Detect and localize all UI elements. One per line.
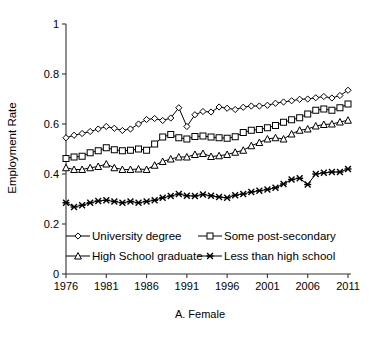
data-point-diamond	[111, 125, 117, 131]
data-point-square	[160, 134, 166, 140]
data-point-x	[280, 181, 287, 187]
data-point-square	[176, 135, 182, 141]
data-point-x	[183, 193, 190, 199]
data-point-diamond	[240, 104, 246, 110]
data-point-diamond	[232, 106, 238, 112]
data-point-x	[95, 198, 102, 204]
data-point-diamond	[272, 100, 278, 106]
data-point-diamond	[216, 104, 222, 110]
data-point-diamond	[79, 130, 85, 136]
data-point-triangle	[345, 117, 352, 124]
data-point-triangle	[63, 164, 70, 171]
data-point-diamond	[135, 121, 141, 127]
data-point-x	[199, 192, 206, 198]
data-point-x	[135, 200, 142, 206]
data-point-diamond	[95, 126, 101, 132]
y-axis-tick-label: 0.8	[44, 68, 59, 80]
data-point-diamond	[87, 128, 93, 134]
legend-item-3[interactable]: High School graduate	[66, 250, 203, 262]
data-point-diamond	[184, 123, 190, 129]
data-point-triangle	[256, 139, 263, 146]
data-point-x	[296, 175, 303, 181]
data-point-triangle	[288, 131, 295, 138]
chart-canvas: 00.20.40.60.81 1976198119861991199620012…	[0, 0, 383, 337]
chart-legend: University degreeSome post-secondaryHigh…	[66, 230, 336, 262]
data-point-x	[304, 182, 311, 188]
data-point-triangle	[240, 147, 247, 154]
data-point-triangle	[272, 134, 279, 141]
data-point-x	[159, 195, 166, 201]
legend-label: University degree	[92, 230, 181, 242]
data-point-diamond	[143, 116, 149, 122]
data-point-x	[216, 194, 223, 200]
data-point-diamond	[305, 96, 311, 102]
x-axis-tick-label: 1996	[215, 280, 239, 292]
legend-item-2[interactable]: Some post-secondary	[198, 230, 336, 242]
x-axis-tick-label: 1976	[54, 280, 78, 292]
data-point-x	[288, 177, 295, 183]
data-point-x	[320, 170, 327, 176]
data-point-square	[200, 133, 206, 139]
data-point-x	[256, 188, 263, 194]
employment-rate-chart: 00.20.40.60.81 1976198119861991199620012…	[0, 0, 383, 337]
data-point-x	[119, 200, 126, 206]
data-point-square	[87, 150, 93, 156]
data-point-x	[167, 193, 174, 199]
y-axis: 00.20.40.60.81	[44, 18, 66, 280]
y-axis-tick-label: 1	[53, 18, 59, 30]
data-point-triangle	[200, 150, 207, 157]
legend-label: High School graduate	[92, 250, 203, 262]
legend-item-1[interactable]: University degree	[66, 230, 181, 242]
data-point-square	[272, 123, 278, 129]
data-point-diamond	[337, 92, 343, 98]
data-point-square	[63, 156, 69, 162]
data-point-diamond	[297, 96, 303, 102]
legend-item-4[interactable]: Less than high school	[198, 250, 335, 262]
data-point-square	[313, 107, 319, 113]
data-point-square	[264, 125, 270, 131]
data-point-diamond	[280, 99, 286, 105]
data-point-square	[136, 146, 142, 152]
data-point-square	[256, 127, 262, 133]
data-point-x	[224, 195, 231, 201]
data-point-diamond	[224, 105, 230, 111]
y-axis-tick-label: 0.4	[44, 168, 59, 180]
data-point-diamond	[160, 117, 166, 123]
data-point-square	[289, 117, 295, 123]
data-point-diamond	[200, 108, 206, 114]
legend-marker-diamond	[75, 233, 81, 239]
x-axis-tick-label: 2001	[255, 280, 279, 292]
x-axis-tick-label: 1991	[175, 280, 199, 292]
data-point-x	[345, 166, 352, 172]
data-point-square	[127, 147, 133, 153]
y-axis-tick-label: 0.2	[44, 218, 59, 230]
data-point-square	[248, 127, 254, 133]
data-point-diamond	[248, 103, 254, 109]
data-point-square	[184, 136, 190, 142]
data-point-square	[144, 147, 150, 153]
data-point-square	[192, 134, 198, 140]
x-axis-tick-label: 1981	[94, 280, 118, 292]
data-point-x	[127, 199, 134, 205]
data-point-square	[297, 115, 303, 121]
data-point-square	[103, 145, 109, 151]
data-point-x	[111, 199, 118, 205]
data-point-square	[337, 105, 343, 111]
data-point-x	[264, 187, 271, 193]
data-point-square	[71, 154, 77, 160]
chart-caption: A. Female	[175, 308, 225, 320]
data-point-square	[111, 147, 117, 153]
data-point-diamond	[192, 112, 198, 118]
data-point-x	[87, 200, 94, 206]
data-point-triangle	[304, 126, 311, 133]
data-point-diamond	[71, 132, 77, 138]
legend-marker-x	[207, 253, 214, 259]
data-point-x	[336, 169, 343, 175]
x-axis-tick-label: 2011	[336, 280, 360, 292]
data-point-square	[232, 134, 238, 140]
data-point-diamond	[152, 115, 158, 121]
data-point-triangle	[111, 164, 118, 171]
y-axis-title: Employment Rate	[6, 102, 18, 193]
data-point-x	[143, 199, 150, 205]
data-point-diamond	[289, 98, 295, 104]
